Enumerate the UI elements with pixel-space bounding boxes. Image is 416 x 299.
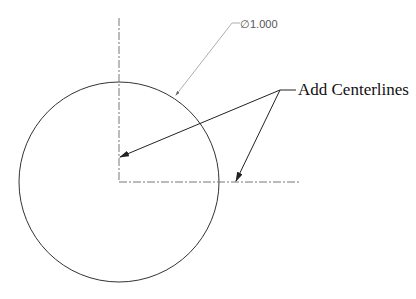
dimension-leader	[176, 23, 240, 95]
sketch-geometry	[0, 0, 416, 299]
diameter-dimension[interactable]: ∅1.000	[240, 18, 278, 31]
drawing-canvas: ∅1.000 Add Centerlines	[0, 0, 416, 299]
callout-label: Add Centerlines	[298, 80, 409, 100]
callout-arrow-1	[120, 90, 280, 157]
callout-arrow-2	[236, 90, 280, 181]
